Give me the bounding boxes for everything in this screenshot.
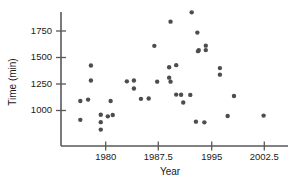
data-point: [174, 92, 178, 96]
x-tick-label-2002-5: 2002.5: [250, 151, 279, 162]
plot-canvas: 1750 1500 1250 1000 1980 1987.5 1995 200…: [0, 0, 295, 182]
data-point: [99, 120, 103, 124]
data-point: [78, 99, 82, 103]
data-point: [232, 94, 236, 98]
x-tick-label-1995: 1995: [201, 151, 222, 162]
data-point: [78, 118, 82, 122]
y-tick-label-1500: 1500: [31, 51, 52, 62]
data-point: [89, 63, 93, 67]
data-point: [152, 44, 156, 48]
data-point: [190, 10, 194, 14]
data-point: [174, 63, 178, 67]
data-point: [204, 43, 208, 47]
data-point: [86, 97, 90, 101]
x-tick-label-1987-5: 1987.5: [144, 151, 173, 162]
x-axis-title: Year: [160, 166, 181, 177]
y-axis-title: Time (min): [7, 58, 18, 105]
data-point: [181, 100, 185, 104]
data-point: [225, 114, 229, 118]
data-point: [195, 30, 199, 34]
data-point: [167, 75, 171, 79]
data-point: [155, 79, 159, 83]
x-tick-label-1980: 1980: [95, 151, 116, 162]
data-point: [168, 19, 172, 23]
data-point: [99, 113, 103, 117]
data-point: [204, 48, 208, 52]
data-point: [167, 65, 171, 69]
data-point: [108, 99, 112, 103]
data-point: [111, 113, 115, 117]
data-point: [132, 86, 136, 90]
data-point: [89, 78, 93, 82]
data-point: [218, 66, 222, 70]
y-tick-label-1750: 1750: [31, 25, 52, 36]
data-point: [188, 93, 192, 97]
data-point: [147, 96, 151, 100]
scatter-plot-figure: 1750 1500 1250 1000 1980 1987.5 1995 200…: [0, 0, 295, 182]
data-point: [218, 72, 222, 76]
data-points-group: [78, 10, 266, 132]
y-tick-label-1000: 1000: [31, 104, 52, 115]
data-point: [194, 119, 198, 123]
data-point: [197, 48, 201, 52]
data-point: [139, 97, 143, 101]
data-point: [179, 93, 183, 97]
data-point: [99, 127, 103, 131]
data-point: [132, 78, 136, 82]
y-tick-label-1250: 1250: [31, 78, 52, 89]
data-point: [202, 120, 206, 124]
data-point: [261, 113, 265, 117]
data-point: [125, 79, 129, 83]
data-point: [106, 114, 110, 118]
data-point: [168, 79, 172, 83]
